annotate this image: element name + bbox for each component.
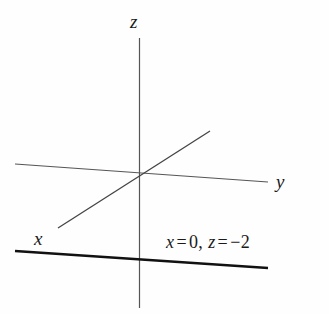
equation-equals-2: = [216,232,231,252]
equation-value-x: 0 [189,232,198,252]
equation-value-z: −2 [230,232,250,252]
axes-svg [0,0,329,314]
line-equation-annotation: x=0, z=−2 [166,233,250,251]
equation-var-z: z [208,232,215,252]
y-axis-label: y [276,172,284,191]
x-axis-line [58,131,210,228]
z-axis-label: z [130,12,137,31]
math-figure: z y x x=0, z=−2 [0,0,329,314]
equation-equals-1: = [174,232,189,252]
plotted-line [15,251,268,268]
x-axis-label: x [34,229,42,248]
equation-comma: , [198,232,203,252]
y-axis-line [15,164,268,182]
